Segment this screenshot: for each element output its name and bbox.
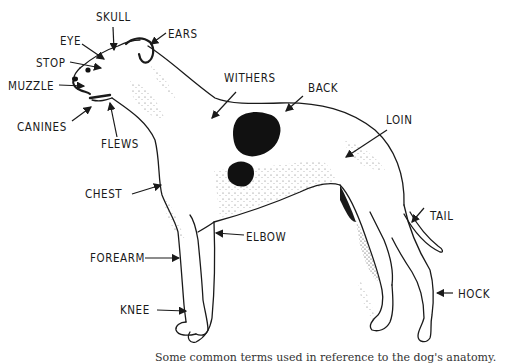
label-knee: KNEE	[120, 304, 150, 317]
label-eye: EYE	[60, 35, 81, 48]
label-elbow: ELBOW	[246, 231, 286, 244]
figure-caption: Some common terms used in reference to t…	[155, 352, 496, 363]
label-canines: CANINES	[17, 121, 67, 134]
label-muzzle: MUZZLE	[8, 80, 54, 93]
label-loin: LOIN	[386, 114, 412, 127]
label-back: BACK	[308, 82, 338, 95]
label-chest: CHEST	[85, 188, 122, 201]
label-skull: SKULL	[96, 11, 131, 24]
label-stop: STOP	[36, 57, 65, 70]
eye-dot	[85, 67, 90, 72]
label-ears: EARS	[168, 28, 198, 41]
shading	[130, 64, 385, 320]
label-forearm: FOREARM	[90, 252, 145, 265]
label-flews: FLEWS	[101, 138, 139, 151]
dog-illustration	[0, 0, 505, 363]
label-withers: WITHERS	[224, 72, 276, 85]
nose-dot	[72, 77, 78, 82]
label-tail: TAIL	[430, 210, 454, 223]
label-hock: HOCK	[458, 288, 490, 301]
dog-anatomy-diagram: SKULL EYE EARS STOP MUZZLE CANINES FLEWS…	[0, 0, 505, 363]
